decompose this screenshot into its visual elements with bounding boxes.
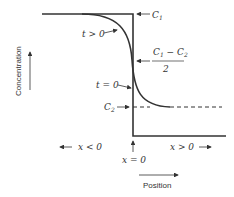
diffusion-diagram: C1 C1 − C2 2 t > 0 t = 0 C2 x < 0 x > 0 …: [0, 0, 234, 197]
midpoint-numerator: C1 − C2: [153, 47, 188, 58]
x-gt-0-label: x > 0: [170, 142, 194, 152]
t-eq-0-label: t = 0: [96, 80, 119, 90]
y-axis-label: Concentration: [14, 46, 23, 96]
x-lt-0-label: x < 0: [78, 142, 102, 152]
t-eq-0-arrow-icon: [118, 85, 131, 88]
c1-label: C1: [152, 10, 163, 21]
t-gt-0-label: t > 0: [82, 29, 105, 39]
midpoint-denominator: 2: [162, 64, 169, 74]
t-gt-0-arrow-icon: [104, 30, 117, 33]
c2-label: C2: [104, 102, 115, 113]
diffused-profile-curve: [82, 14, 170, 107]
x-axis-label: Position: [143, 181, 171, 190]
x-eq-0-label: x = 0: [122, 155, 146, 165]
